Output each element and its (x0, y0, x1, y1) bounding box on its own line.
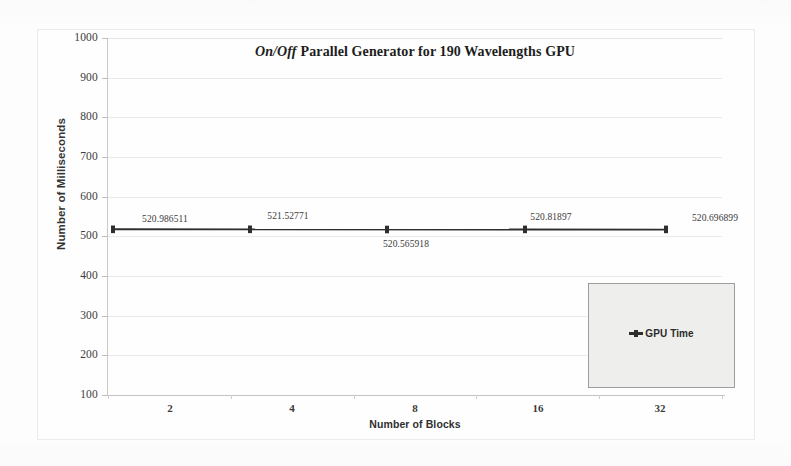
x-tick-1 (231, 395, 232, 399)
y-tick-label-700: 700 (38, 150, 98, 162)
data-label-point-0: 520.986511 (105, 214, 225, 224)
y-tick-label-400: 400 (38, 269, 98, 281)
y-tick-500 (102, 236, 108, 237)
gridline-700 (108, 157, 722, 158)
x-tick-label-16: 16 (508, 402, 568, 414)
gridline-500 (108, 236, 722, 237)
y-tick-label-900: 900 (38, 71, 98, 83)
data-label-point-1: 521.52771 (228, 211, 348, 221)
x-tick-3 (476, 395, 477, 399)
x-axis-line (103, 395, 725, 396)
y-axis-title: Number of Milliseconds (55, 84, 67, 284)
x-tick-label-2: 2 (140, 402, 200, 414)
y-tick-label-500: 500 (38, 229, 98, 241)
y-tick-200 (102, 355, 108, 356)
x-tick-2 (354, 395, 355, 399)
legend-line-marker-icon (629, 332, 643, 335)
y-tick-label-1000: 1000 (38, 31, 98, 43)
x-tick-4 (599, 395, 600, 399)
scanned-page: 1000 900 800 700 600 500 400 300 200 100… (0, 0, 791, 466)
chart-title-main-part: Parallel Generator for 190 Wavelengths G… (301, 44, 575, 59)
y-tick-600 (102, 197, 108, 198)
x-tick-label-4: 4 (262, 402, 322, 414)
y-tick-700 (102, 157, 108, 158)
data-label-point-4: 520.696899 (655, 213, 775, 223)
gridline-400 (108, 276, 722, 277)
y-tick-label-800: 800 (38, 110, 98, 122)
x-tick-label-32: 32 (630, 402, 690, 414)
legend-entry-label: GPU Time (645, 328, 693, 339)
y-tick-label-600: 600 (38, 190, 98, 202)
chart-title: On/OffParallel Generator for 190 Wavelen… (108, 44, 722, 60)
y-tick-label-100: 100 (38, 388, 98, 400)
gridline-600 (108, 197, 722, 198)
y-tick-300 (102, 316, 108, 317)
y-tick-label-200: 200 (38, 348, 98, 360)
gridline-1000 (108, 38, 722, 39)
y-tick-1000 (102, 38, 108, 39)
x-tick-label-8: 8 (385, 402, 445, 414)
data-label-point-3: 520.81897 (491, 212, 611, 222)
chart-legend[interactable]: GPU Time (588, 283, 735, 388)
data-label-point-2: 520.565918 (346, 239, 466, 249)
x-tick-5 (722, 395, 723, 399)
y-tick-label-300: 300 (38, 309, 98, 321)
y-tick-800 (102, 117, 108, 118)
gridline-900 (108, 78, 722, 79)
x-axis-title: Number of Blocks (108, 418, 722, 430)
y-tick-900 (102, 78, 108, 79)
x-tick-0 (108, 395, 109, 399)
y-tick-400 (102, 276, 108, 277)
gridline-800 (108, 117, 722, 118)
legend-entry-gpu-time[interactable]: GPU Time (589, 328, 734, 339)
chart-title-italic-part: On/Off (255, 44, 297, 59)
